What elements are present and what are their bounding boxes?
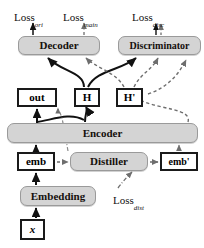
loss-ori-label: Lossori xyxy=(14,8,43,27)
edge-encoder-to-hprime xyxy=(140,100,188,122)
node-decoder[interactable]: Decoder xyxy=(18,36,100,55)
edge-hprime-to-discriminator xyxy=(134,58,158,87)
node-emb-prime[interactable]: emb' xyxy=(160,152,198,171)
edge-encoder-to-out xyxy=(37,109,84,124)
node-x[interactable]: x xyxy=(20,219,45,240)
edge-encoder-to-h xyxy=(85,107,87,122)
node-h[interactable]: H xyxy=(74,88,100,107)
loss-dist-subscript: dist xyxy=(134,204,144,212)
loss-ori-subscript: ori xyxy=(35,21,43,29)
loss-dist-label: Lossdist xyxy=(113,191,144,210)
edge-encoder-to-discriminator-far xyxy=(148,60,186,94)
loss-main-base: Loss xyxy=(63,11,84,23)
loss-disc-label: Lossdisc xyxy=(132,8,164,27)
loss-main-subscript: main xyxy=(84,21,98,29)
node-discriminator[interactable]: Discriminator xyxy=(118,36,201,55)
edge-h-to-decoder xyxy=(48,58,84,87)
node-out[interactable]: out xyxy=(17,88,57,107)
loss-disc-base: Loss xyxy=(132,11,153,23)
edge-h-to-discriminator xyxy=(88,58,136,87)
node-h-prime[interactable]: H' xyxy=(116,88,143,107)
node-distiller[interactable]: Distiller xyxy=(70,152,148,171)
architecture-diagram: Lossori Lossmain Lossdisc Lossdist Decod… xyxy=(0,0,204,248)
edge-hprime-to-decoder xyxy=(86,58,124,87)
node-embedding[interactable]: Embedding xyxy=(20,186,96,206)
edge-loss-dist-to-distiller xyxy=(118,172,132,188)
node-encoder[interactable]: Encoder xyxy=(7,123,198,143)
node-emb[interactable]: emb xyxy=(17,152,55,171)
loss-ori-base: Loss xyxy=(14,11,35,23)
loss-disc-subscript: disc xyxy=(153,21,164,29)
loss-dist-base: Loss xyxy=(113,194,134,206)
loss-main-label: Lossmain xyxy=(63,8,98,27)
